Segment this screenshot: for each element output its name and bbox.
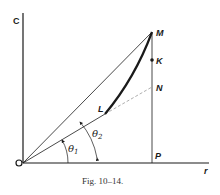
dashed-ln	[105, 87, 152, 114]
point-k	[150, 58, 154, 62]
label-n: N	[156, 83, 163, 93]
figure-caption: Fig. 10–14.	[82, 176, 123, 186]
theta2-label: θ2	[92, 128, 103, 141]
origin-marker	[16, 160, 22, 166]
diagram-canvas: C r M K N L P θ1 θ2 Fig. 10–14.	[0, 0, 220, 195]
label-m: M	[156, 28, 164, 38]
label-p: P	[155, 151, 162, 161]
ray-om	[23, 32, 152, 163]
theta1-label: θ1	[68, 143, 79, 156]
label-l: L	[98, 104, 104, 114]
c-axis-label: C	[13, 16, 20, 26]
label-k: K	[156, 56, 164, 66]
r-axis-label: r	[204, 166, 208, 176]
